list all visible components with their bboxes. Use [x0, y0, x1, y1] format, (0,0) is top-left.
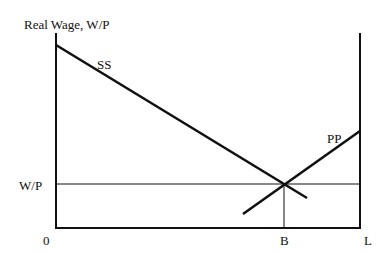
employment-label: B — [280, 234, 289, 247]
labor-market-diagram — [0, 0, 386, 254]
y-axis-label: Real Wage, W/P — [24, 18, 109, 31]
labor-force-label: L — [364, 234, 372, 247]
pp-curve-label: PP — [327, 132, 341, 145]
ss-curve-label: SS — [97, 58, 111, 71]
ss-curve — [56, 45, 307, 198]
pp-curve — [243, 131, 360, 214]
origin-label: 0 — [43, 234, 50, 247]
wage-label: W/P — [19, 179, 42, 192]
